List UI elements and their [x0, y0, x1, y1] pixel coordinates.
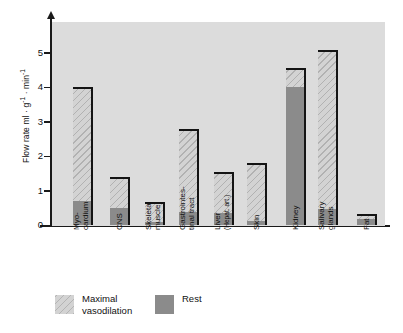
legend-swatch-light [55, 295, 74, 314]
y-axis-tick [44, 52, 51, 53]
y-axis-label-exponent-2: -1 [19, 69, 26, 75]
y-axis-label-exponent-1: -1 [19, 97, 26, 103]
x-axis-tick-label-line-2: glands [326, 202, 335, 230]
x-axis-tick-label-line-1: CNS [115, 213, 124, 230]
y-axis-tick-label: 5 [19, 47, 43, 58]
bar-group [318, 21, 338, 225]
bar-maximal-vasodilation [318, 50, 338, 225]
x-axis-tick-label-line-2: tinal tract [187, 186, 196, 230]
x-axis-tick-label-line-1: Fat [362, 218, 371, 230]
x-axis-tick-label: CNS [115, 213, 124, 230]
legend-label: Maximal vasodilation [82, 293, 132, 316]
x-axis-tick-label-line-1: Skeletal [144, 202, 153, 230]
x-axis-tick-label-line-2: muscle [153, 202, 162, 230]
x-axis-tick-label: Liver(Hepat. art.) [213, 195, 231, 230]
y-axis-tick [44, 87, 51, 88]
y-axis-tick [44, 121, 51, 122]
x-axis-tick-label-line-1: Skin [252, 214, 261, 230]
x-axis-tick-label-line-1: Myo- [72, 202, 81, 230]
bar-group [286, 21, 306, 225]
x-axis-tick-label-line-2: (Hepat. art.) [222, 195, 231, 230]
y-axis-tick-label: 2 [19, 150, 43, 161]
y-axis-tick [44, 156, 51, 157]
y-axis-tick-label: 1 [19, 185, 43, 196]
x-axis-tick-label: Salivaryglands [317, 202, 335, 230]
x-axis-tick-label: Gastrointes-tinal tract [178, 186, 196, 230]
bar-group [73, 21, 93, 225]
x-axis-tick-label-line-1: Liver [213, 195, 222, 230]
bar-group [247, 21, 267, 225]
x-axis-tick-label-line-1: Kidney [291, 206, 300, 230]
y-axis-tick [44, 225, 51, 226]
x-axis-tick-label-line-1: Gastrointes- [178, 186, 187, 230]
x-axis-tick-label: Myo-cardium [72, 202, 90, 230]
bar-group [145, 21, 165, 225]
y-axis-tick-label: 0 [19, 219, 43, 230]
legend-swatch-dark [155, 295, 174, 314]
x-axis-tick-label-line-2: cardium [81, 202, 90, 230]
bar-group [110, 21, 130, 225]
chart-legend: Maximal vasodilationRest [0, 294, 403, 326]
y-axis-tick-label: 3 [19, 116, 43, 127]
y-axis-tick-label: 4 [19, 81, 43, 92]
y-axis-tick [44, 190, 51, 191]
x-axis-tick-label: Skin [252, 214, 261, 230]
x-axis-tick-label: Kidney [291, 206, 300, 230]
bar-group [357, 21, 377, 225]
x-axis-tick-label-line-1: Salivary [317, 202, 326, 230]
x-axis-tick-label: Fat [362, 218, 371, 230]
x-axis-tick-label: Skeletalmuscle [144, 202, 162, 230]
legend-label: Rest [182, 293, 202, 305]
flow-rate-bar-chart: Flow rate ml · g-1 · min-1 012345 Myo-ca… [0, 0, 403, 333]
